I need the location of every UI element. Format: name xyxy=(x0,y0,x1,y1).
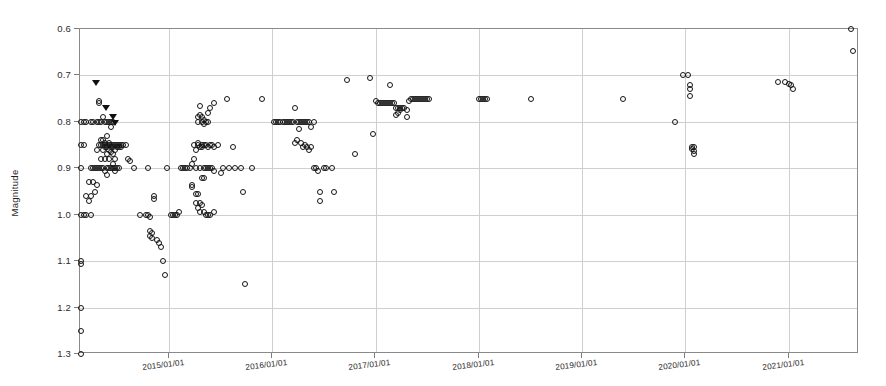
gridline-vertical xyxy=(376,29,377,352)
data-point xyxy=(317,189,323,195)
x-tick-mark xyxy=(788,353,789,358)
x-tick-label: 2017/01/01 xyxy=(348,358,391,372)
data-point xyxy=(426,96,432,102)
y-tick-label: 1.2 xyxy=(37,301,71,312)
data-point xyxy=(240,189,246,195)
y-tick-label: 0.6 xyxy=(37,23,71,34)
data-point xyxy=(104,172,110,178)
gridline-horizontal xyxy=(80,215,857,216)
y-tick-label: 0.9 xyxy=(37,162,71,173)
x-tick-label: 2020/01/01 xyxy=(658,358,701,372)
data-point-upper-limit xyxy=(102,105,110,111)
data-point xyxy=(220,165,226,171)
data-point xyxy=(176,209,182,215)
plot-area xyxy=(79,28,858,353)
gridline-vertical xyxy=(272,29,273,352)
data-point xyxy=(685,72,691,78)
gridline-horizontal xyxy=(80,261,857,262)
data-point xyxy=(201,175,207,181)
data-point xyxy=(158,244,164,250)
data-point xyxy=(78,165,84,171)
data-point xyxy=(96,100,102,106)
x-tick-mark xyxy=(478,353,479,358)
data-point xyxy=(211,100,217,106)
data-point xyxy=(137,212,143,218)
data-point xyxy=(160,258,166,264)
gridline-horizontal xyxy=(80,308,857,309)
data-point xyxy=(259,96,265,102)
data-point xyxy=(370,131,376,137)
data-point xyxy=(687,93,693,99)
x-tick-mark xyxy=(581,353,582,358)
data-point xyxy=(78,305,84,311)
data-point xyxy=(92,189,98,195)
x-tick-label: 2021/01/01 xyxy=(762,358,805,372)
data-point xyxy=(116,165,122,171)
data-point xyxy=(775,79,781,85)
data-point xyxy=(104,133,110,139)
data-point xyxy=(164,165,170,171)
data-point xyxy=(215,142,221,148)
y-tick-label: 1.0 xyxy=(37,208,71,219)
data-point xyxy=(242,281,248,287)
y-tick-label: 0.8 xyxy=(37,115,71,126)
data-point xyxy=(850,48,856,54)
data-point xyxy=(226,165,232,171)
data-point xyxy=(211,168,217,174)
data-point xyxy=(404,114,410,120)
x-tick-mark xyxy=(374,353,375,358)
data-point xyxy=(195,191,201,197)
data-point xyxy=(88,212,94,218)
data-point xyxy=(387,82,393,88)
data-point xyxy=(344,77,350,83)
data-point xyxy=(151,196,157,202)
data-point xyxy=(691,151,697,157)
data-point xyxy=(232,165,238,171)
data-point xyxy=(311,119,317,125)
data-point xyxy=(81,142,87,148)
data-point xyxy=(687,86,693,92)
data-point xyxy=(315,168,321,174)
x-tick-label: 2019/01/01 xyxy=(555,358,598,372)
data-point xyxy=(238,165,244,171)
y-tick-label: 1.3 xyxy=(37,348,71,359)
gridline-vertical xyxy=(582,29,583,352)
data-point xyxy=(147,214,153,220)
gridline-vertical xyxy=(479,29,480,352)
data-point xyxy=(131,165,137,171)
data-point xyxy=(296,126,302,132)
data-point-upper-limit xyxy=(111,120,119,126)
data-point xyxy=(308,144,314,150)
data-point xyxy=(367,75,373,81)
data-point xyxy=(484,96,490,102)
y-tick-label: 1.1 xyxy=(37,255,71,266)
data-point xyxy=(323,165,329,171)
y-tick-label: 0.7 xyxy=(37,69,71,80)
data-point xyxy=(329,165,335,171)
data-point xyxy=(191,156,197,162)
data-point xyxy=(205,119,211,125)
data-point xyxy=(848,26,854,32)
x-tick-label: 2015/01/01 xyxy=(142,358,185,372)
data-point xyxy=(317,198,323,204)
gridline-vertical xyxy=(789,29,790,352)
data-point xyxy=(189,184,195,190)
data-point xyxy=(211,209,217,215)
data-point xyxy=(197,103,203,109)
data-point xyxy=(790,86,796,92)
data-point xyxy=(352,151,358,157)
data-point xyxy=(94,182,100,188)
data-point xyxy=(112,156,118,162)
x-tick-mark xyxy=(684,353,685,358)
data-point xyxy=(528,96,534,102)
data-point xyxy=(249,165,255,171)
data-point xyxy=(123,142,129,148)
x-tick-mark xyxy=(271,353,272,358)
data-point xyxy=(127,158,133,164)
data-point xyxy=(404,107,410,113)
x-tick-mark xyxy=(168,353,169,358)
data-point xyxy=(620,96,626,102)
data-point xyxy=(78,328,84,334)
gridline-vertical xyxy=(169,29,170,352)
data-point xyxy=(224,96,230,102)
